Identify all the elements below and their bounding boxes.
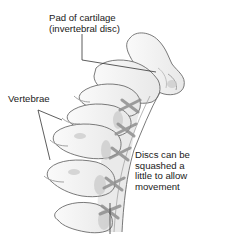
vertebrae-label: Vertebrae	[8, 94, 50, 105]
pad-label-line2: (invertebral disc)	[49, 23, 120, 34]
discs-label-line1: Discs can be	[135, 149, 190, 160]
vertebrae-leader-line-1	[38, 110, 62, 120]
spine-diagram: Pad of cartilage (invertebral disc) Vert…	[0, 0, 240, 235]
discs-label-line2: squashed a	[135, 160, 185, 171]
pad-label-line1: Pad of cartilage	[49, 12, 116, 23]
discs-label-line4: movement	[135, 181, 180, 192]
vertebrae-leader-line-2	[38, 110, 50, 160]
vertebrae-label-text: Vertebrae	[8, 93, 50, 104]
cervical-spine-illustration	[0, 0, 240, 235]
discs-label: Discs can be squashed a little to allow …	[135, 150, 190, 192]
discs-label-line3: little to allow	[135, 170, 187, 181]
pad-of-cartilage-label: Pad of cartilage (invertebral disc)	[49, 13, 120, 34]
